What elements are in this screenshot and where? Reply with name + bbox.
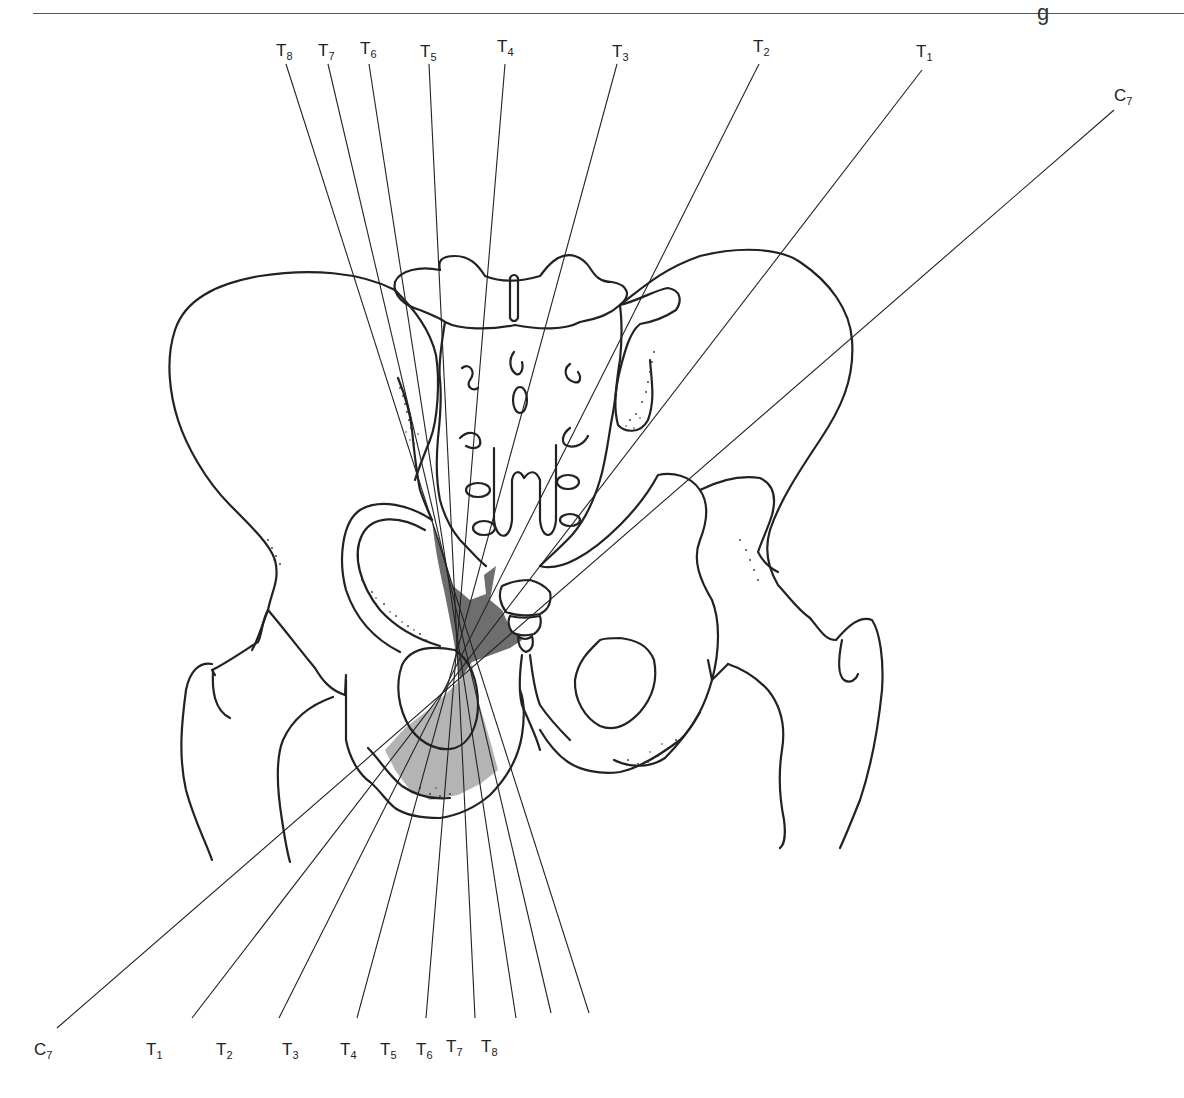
top-label-t7: T7 <box>318 41 335 62</box>
segment-rays <box>57 64 1114 1028</box>
right-femur-trochanter-hook <box>839 640 858 682</box>
right-femur-medial <box>728 664 785 848</box>
right-femur-intertrochanteric <box>708 660 728 680</box>
dark-shaded-region <box>432 520 522 680</box>
median-sacral-crest <box>494 445 556 536</box>
stipple-texture <box>267 351 759 797</box>
sacral-right-tubercle <box>566 364 580 382</box>
ray-c7 <box>57 110 1114 1028</box>
bottom-label-t1: T1 <box>146 1040 163 1061</box>
top-label-t3: T3 <box>612 42 629 63</box>
bottom-label-t8: T8 <box>481 1037 498 1058</box>
ray-t6 <box>369 64 516 1018</box>
sacral-left-crest <box>460 433 480 448</box>
ray-t3 <box>357 64 617 1018</box>
sacral-mid-tubercle <box>510 352 522 374</box>
top-label-t4: T4 <box>497 37 514 58</box>
top-label-c7: C7 <box>1114 86 1132 107</box>
right-ischial-tuberosity <box>614 712 700 766</box>
coccyx-tip <box>518 636 533 652</box>
sacral-left-tubercle <box>462 366 478 389</box>
sacrum-left-ala <box>437 322 486 566</box>
coccyx-segment-2 <box>509 616 541 635</box>
bottom-label-c7: C7 <box>34 1040 52 1061</box>
left-femur-head-neck <box>181 664 212 860</box>
top-label-t5: T5 <box>420 42 437 63</box>
sacrum-body-top <box>439 255 627 328</box>
bottom-label-t7: T7 <box>446 1037 463 1058</box>
bottom-label-t2: T2 <box>216 1040 233 1061</box>
sacral-right-crest <box>563 428 588 447</box>
page-header-fragment: g <box>1037 0 1049 26</box>
left-femur-intertrochanteric <box>345 675 346 695</box>
left-femur-trochanter-hook <box>213 670 230 718</box>
bottom-labels: C7 T1 T2 T3 T4 T5 T6 T7 T8 <box>34 1037 498 1061</box>
left-femur-neck <box>268 610 345 695</box>
ray-t1 <box>192 70 922 1018</box>
left-acetabulum-inner <box>358 519 440 646</box>
top-label-t1: T1 <box>916 42 933 63</box>
bottom-label-t5: T5 <box>380 1040 397 1061</box>
sacral-foramen-right-2 <box>557 475 579 489</box>
bottom-label-t3: T3 <box>282 1040 299 1061</box>
right-femur-neck <box>700 477 778 572</box>
top-labels: T8 T7 T6 T5 T4 T3 T2 T1 C7 <box>276 37 1132 107</box>
right-ilium-inner-crest <box>616 288 680 431</box>
bottom-label-t6: T6 <box>416 1040 433 1061</box>
light-shaded-region <box>385 664 498 800</box>
right-femur-lateral <box>810 618 883 848</box>
sacral-foramen-right-3 <box>560 514 580 526</box>
top-label-t6: T6 <box>360 39 377 60</box>
left-femur-shaft-medial <box>278 697 333 862</box>
pelvis-diagram: T8 T7 T6 T5 T4 T3 T2 T1 C7 C7 T1 T2 T3 T… <box>0 0 1184 1098</box>
sacrum-right-ala <box>540 305 622 566</box>
right-ilium-outline <box>620 250 852 618</box>
left-femur-greater-trochanter <box>212 610 268 675</box>
bottom-label-t4: T4 <box>340 1040 357 1061</box>
ray-t8 <box>286 64 589 1013</box>
diagram-stage: g <box>0 0 1184 1098</box>
top-label-t2: T2 <box>753 37 770 58</box>
page-header-rule: g <box>33 13 1184 14</box>
right-obturator-foramen <box>575 638 655 728</box>
sacrum-promontory-disc <box>510 275 518 321</box>
top-label-t8: T8 <box>276 41 293 62</box>
left-ilium-outline <box>169 272 395 650</box>
